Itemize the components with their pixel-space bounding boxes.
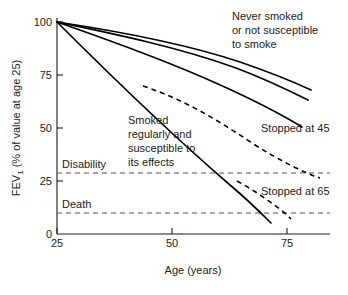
never-smoked-annotation-line-2: or not susceptible: [232, 24, 318, 36]
smoked-regularly-annotation: Smoked regularly and susceptible to its …: [128, 114, 195, 168]
x-tick-marks: [57, 228, 287, 234]
never-smoked-annotation-line-3: to smoke: [232, 38, 277, 50]
never-smoked-annotation-line-1: Never smoked: [232, 10, 303, 22]
smoked-regularly-annotation-line-2: regularly and: [128, 128, 192, 140]
y-tick-label-25: 25: [40, 175, 52, 187]
death-label: Death: [62, 198, 91, 210]
x-axis-title: Age (years): [165, 264, 222, 276]
y-tick-label-50: 50: [40, 122, 52, 134]
x-tick-labels: 25 50 75: [51, 237, 293, 249]
smoked-regularly-annotation-line-1: Smoked: [128, 114, 168, 126]
x-tick-label-75: 75: [281, 237, 293, 249]
stopped-at-45-annotation: Stopped at 45: [261, 122, 330, 134]
y-axis-title: FEV1 (% of value at age 25): [10, 60, 25, 197]
chart-svg: 100 75 50 25 0 25 50 75 Age (years) FEV1…: [0, 0, 348, 295]
smoked-regularly-annotation-line-3: susceptible to: [128, 142, 195, 154]
never-smoked-annotation: Never smoked or not susceptible to smoke: [232, 10, 318, 50]
x-tick-label-50: 50: [166, 237, 178, 249]
y-tick-labels: 100 75 50 25 0: [34, 16, 52, 240]
smoked-regularly-annotation-line-4: its effects: [128, 156, 175, 168]
y-axis-title-prefix: FEV: [10, 174, 22, 196]
fev1-decline-chart: 100 75 50 25 0 25 50 75 Age (years) FEV1…: [0, 0, 348, 295]
y-axis-title-suffix: (% of value at age 25): [10, 60, 22, 171]
disability-label: Disability: [62, 158, 107, 170]
y-tick-label-75: 75: [40, 69, 52, 81]
stopped-at-65-annotation: Stopped at 65: [261, 185, 330, 197]
svg-text:FEV1 (% of value at age 25): FEV1 (% of value at age 25): [10, 60, 25, 197]
y-tick-label-100: 100: [34, 16, 52, 28]
x-tick-label-25: 25: [51, 237, 63, 249]
